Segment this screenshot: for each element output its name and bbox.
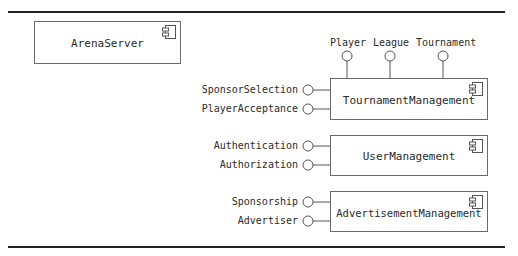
- component-arenaserver: ArenaServer: [34, 21, 181, 64]
- playeracceptance-interface-icon: [303, 104, 313, 114]
- interface-label-authorization: Authorization: [220, 159, 298, 171]
- component-icon: [469, 195, 483, 209]
- interface-label-player: Player: [330, 37, 366, 49]
- sponsorship-interface-icon: [303, 197, 313, 207]
- component-name: UserManagement: [363, 148, 456, 163]
- component-icon: [162, 25, 176, 39]
- sponsorselection-interface-icon: [303, 85, 313, 95]
- component-name: TournamentManagement: [343, 92, 475, 107]
- interface-label-tournament: Tournament: [416, 37, 476, 49]
- authorization-interface-icon: [303, 160, 313, 170]
- interface-label-sponsorselection: SponsorSelection: [202, 84, 298, 96]
- authentication-interface-icon: [303, 141, 313, 151]
- component-advertisementmanagement: AdvertisementManagement: [330, 191, 488, 232]
- interface-label-playeracceptance: PlayerAcceptance: [202, 103, 298, 115]
- league-interface-icon: [385, 51, 395, 61]
- component-tournamentmanagement: TournamentManagement: [330, 78, 488, 120]
- interface-label-authentication: Authentication: [214, 140, 298, 152]
- player-interface-icon: [342, 51, 352, 61]
- component-icon: [469, 82, 483, 96]
- component-name: AdvertisementManagement: [336, 205, 481, 219]
- interface-label-sponsorship: Sponsorship: [232, 196, 298, 208]
- advertiser-interface-icon: [303, 216, 313, 226]
- component-name: ArenaServer: [71, 35, 144, 50]
- component-usermanagement: UserManagement: [330, 135, 488, 176]
- component-icon: [469, 139, 483, 153]
- tournament-interface-icon: [438, 51, 448, 61]
- interface-label-league: League: [373, 37, 409, 49]
- interface-label-advertiser: Advertiser: [238, 215, 298, 227]
